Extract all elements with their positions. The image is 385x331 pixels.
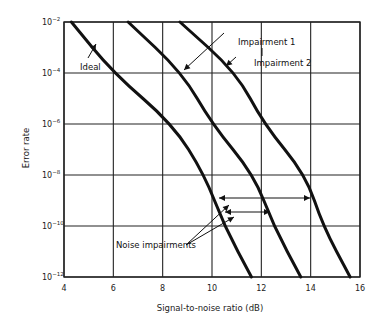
x-tick: 10 [207,284,217,293]
x-tick: 14 [306,284,316,293]
label-noise-impairments: Noise impairments [116,240,196,250]
axis-ticks: 4681012141610−210−410−610−810−1010−12 [42,16,365,293]
x-tick: 12 [256,284,266,293]
curve-ideal [71,22,251,277]
x-tick: 16 [355,284,365,293]
y-tick: 10−8 [42,169,61,180]
x-axis-label: Signal-to-noise ratio (dB) [157,303,263,313]
y-tick: 10−12 [42,271,64,282]
x-tick: 8 [160,284,165,293]
y-tick: 10−6 [42,118,61,129]
label-impairment-2: Impairment 2 [254,58,311,68]
x-tick: 4 [61,284,66,293]
y-tick: 10−10 [42,220,64,231]
error-rate-chart: 4681012141610−210−410−610−810−1010−12 Id… [0,0,385,331]
y-axis-label: Error rate [21,128,31,169]
y-tick: 10−4 [42,67,61,78]
label-ideal: Ideal [80,62,101,72]
plot-grid [64,22,360,277]
x-tick: 6 [111,284,116,293]
label-impairment-1: Impairment 1 [238,37,295,47]
y-tick: 10−2 [42,16,60,27]
